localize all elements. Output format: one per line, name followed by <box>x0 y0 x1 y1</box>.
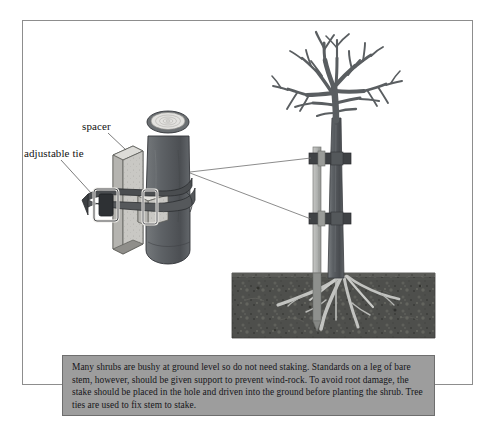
caption-box: Many shrubs are bushy at ground level so… <box>62 355 435 416</box>
illustration-frame <box>22 20 473 385</box>
label-adjustable-tie: adjustable tie <box>24 147 84 159</box>
label-spacer: spacer <box>82 120 111 132</box>
figure-root: spacer adjustable tie Many shrubs are bu… <box>0 0 496 432</box>
caption-text: Many shrubs are bushy at ground level so… <box>72 361 426 411</box>
